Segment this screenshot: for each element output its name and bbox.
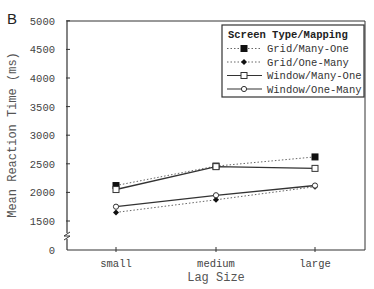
data-point-marker (312, 165, 318, 171)
x-tick-label: large (299, 258, 331, 270)
legend-entry-label: Grid/Many-One (267, 43, 349, 55)
legend-title: Screen Type/Mapping (228, 29, 348, 41)
data-point-marker (213, 193, 218, 198)
line-chart: 015002000250030003500400045005000smallme… (0, 0, 374, 289)
y-tick-label: 4500 (30, 44, 55, 56)
data-point-marker (113, 187, 119, 193)
y-tick-label: 3500 (30, 102, 55, 114)
x-tick-label: small (100, 258, 132, 270)
legend-entry-label: Grid/One-Many (267, 57, 349, 69)
x-axis-title: Lag Size (187, 271, 245, 285)
legend-entry-label: Window/One-Many (267, 84, 362, 96)
series-line-grid-many-one (116, 157, 315, 186)
legend-marker-icon (241, 73, 247, 79)
y-tick-label: 1500 (30, 216, 55, 228)
y-tick-label: 5000 (30, 16, 55, 28)
y-tick-label: 0 (49, 245, 55, 257)
axis-break-icon (64, 232, 70, 240)
y-tick-label: 3000 (30, 130, 55, 142)
data-point-marker (312, 154, 318, 160)
data-point-marker (213, 164, 219, 170)
legend-marker-icon (241, 46, 247, 52)
y-tick-label: 2000 (30, 187, 55, 199)
y-tick-label: 2500 (30, 159, 55, 171)
y-tick-label: 4000 (30, 73, 55, 85)
y-axis-title: Mean Reaction Time (ms) (6, 52, 20, 218)
legend-entry-label: Window/Many-One (267, 70, 362, 82)
data-point-marker (113, 204, 118, 209)
legend-marker-icon (241, 86, 246, 91)
x-tick-label: medium (197, 258, 235, 270)
data-point-marker (113, 209, 119, 215)
data-point-marker (312, 183, 317, 188)
